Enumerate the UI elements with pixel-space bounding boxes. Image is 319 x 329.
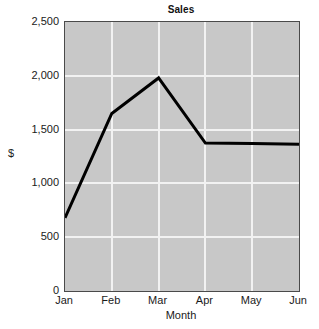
- chart-title: Sales: [64, 3, 298, 16]
- sales-line-chart: Sales 05001,0001,5002,0002,500 $ JanFebM…: [0, 0, 319, 329]
- y-tick-label: 2,000: [5, 70, 59, 81]
- y-axis-ticks: 05001,0001,5002,0002,500: [0, 0, 59, 329]
- x-tick-label: Jun: [268, 294, 319, 306]
- plot-area: [64, 21, 300, 292]
- x-axis-title: Month: [64, 309, 298, 321]
- sales-line-path: [65, 78, 299, 218]
- y-tick-label: 1,000: [5, 177, 59, 188]
- data-series-line: [65, 22, 299, 291]
- y-tick-label: 500: [5, 231, 59, 242]
- y-tick-label: 2,500: [5, 16, 59, 27]
- y-tick-label: 1,500: [5, 124, 59, 135]
- y-axis-title: $: [8, 148, 14, 159]
